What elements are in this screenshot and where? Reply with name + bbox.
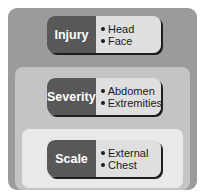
severity-items: Abdomen Extremities xyxy=(96,78,161,115)
list-item: Extremities xyxy=(101,97,161,109)
bullet-icon xyxy=(101,151,105,155)
severity-label: Severity xyxy=(47,78,96,115)
severity-box: Severity Abdomen Extremities xyxy=(47,78,161,115)
bullet-icon xyxy=(101,163,105,167)
scale-box: Scale External Chest xyxy=(47,140,161,177)
injury-label: Injury xyxy=(47,16,96,53)
list-item: Abdomen xyxy=(101,85,161,97)
bullet-icon xyxy=(101,89,105,93)
scale-items: External Chest xyxy=(96,140,161,177)
list-item: Face xyxy=(101,35,161,47)
bullet-icon xyxy=(101,39,105,43)
list-item: Chest xyxy=(101,159,161,171)
injury-box: Injury Head Face xyxy=(47,16,161,53)
list-item: External xyxy=(101,147,161,159)
list-item: Head xyxy=(101,23,161,35)
bullet-icon xyxy=(101,101,105,105)
bullet-icon xyxy=(101,27,105,31)
injury-items: Head Face xyxy=(96,16,161,53)
scale-label: Scale xyxy=(47,140,96,177)
